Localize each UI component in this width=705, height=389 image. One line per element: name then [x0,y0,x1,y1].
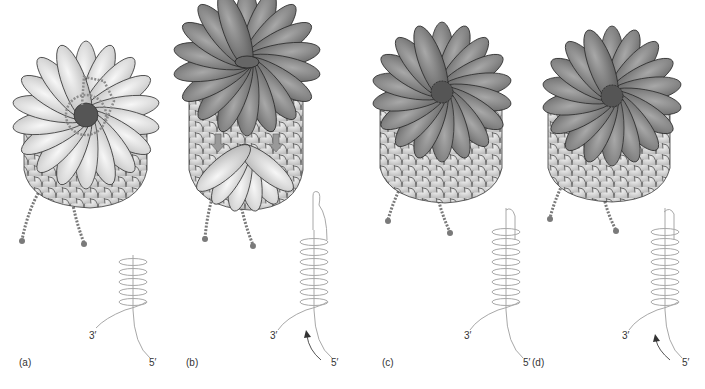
protein-complex-c [360,0,540,389]
panel-a: 3′ 5′ (a) [0,0,175,389]
panel-c: 3′ 5′ (c) [360,0,540,389]
panel-b: 3′ 5′ (b) [175,0,355,389]
protein-complex-d [530,0,705,389]
five-prime-label: 5′ [331,358,338,368]
three-prime-label: 3′ [270,331,277,341]
panel-label: (b) [186,358,198,368]
rna-helix-a [96,255,150,358]
panel-label: (d) [532,358,544,368]
three-prime-label: 3′ [622,331,629,341]
protein-complex-b [175,0,355,389]
tail-left [22,190,40,240]
panel-label: (c) [382,358,394,368]
three-prime-label: 3′ [464,331,471,341]
five-prime-label: 5′ [149,358,156,368]
panel-label: (a) [19,358,31,368]
rna-hairpin-b [278,192,332,359]
curved-arrow-icon [656,340,670,360]
three-prime-label: 3′ [89,331,96,341]
rna-helix-c [470,208,523,358]
panel-d: 3′ 5′ (d) [530,0,705,389]
five-prime-label: 5′ [682,358,689,368]
protein-complex-a [0,0,175,389]
